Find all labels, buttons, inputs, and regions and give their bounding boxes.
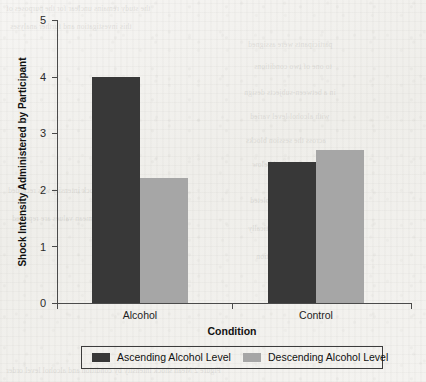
bar-control-ascending — [268, 162, 316, 304]
bar-alcohol-descending — [140, 178, 188, 303]
y-tick-label-5: 5 — [40, 14, 46, 26]
legend-label-descending: Descending Alcohol Level — [268, 351, 388, 363]
x-category-label-alcohol: Alcohol — [123, 309, 157, 321]
y-tick-label-2: 2 — [40, 184, 46, 196]
y-tick-label-3: 3 — [40, 127, 46, 139]
y-tick-label-1: 1 — [40, 241, 46, 253]
bar-chart: 0 1 2 3 4 5 Shock Intensity Administered… — [0, 0, 426, 382]
x-category-label-control: Control — [299, 309, 333, 321]
legend-label-ascending: Ascending Alcohol Level — [117, 351, 231, 363]
y-axis-title: Shock Intensity Administered by Particip… — [17, 57, 28, 267]
x-axis-title: Condition — [208, 325, 257, 337]
legend-swatch-ascending — [92, 353, 110, 362]
bar-alcohol-ascending — [92, 77, 140, 303]
legend-swatch-descending — [243, 353, 261, 362]
bar-control-descending — [316, 150, 364, 303]
y-tick-label-0: 0 — [40, 297, 46, 309]
y-tick-label-4: 4 — [40, 71, 46, 83]
scanned-page: the study remains unclear for the purpos… — [0, 0, 426, 382]
